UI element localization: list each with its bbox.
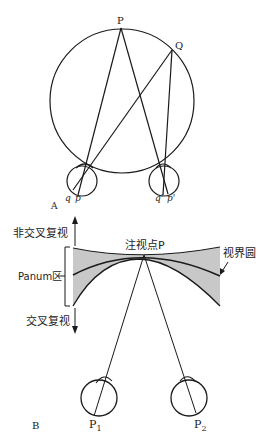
left-cornea-b: [96, 377, 112, 383]
panum-bracket: [65, 247, 70, 306]
retina-p-label: p: [75, 193, 81, 203]
uncrossed-diplopia-label: 非交叉复视: [13, 226, 68, 240]
retina-p1-sub: 1: [96, 424, 101, 433]
fixation-point-label: 注视点P: [125, 238, 165, 252]
down-arrowhead: [72, 326, 78, 334]
retina-p-prime-label: p': [167, 193, 175, 203]
point-Q-label: Q: [175, 40, 183, 51]
retina-q-label: q: [65, 193, 71, 203]
crossed-diplopia-label: 交叉复视: [26, 314, 70, 328]
left-eye-b: [81, 380, 117, 416]
panel-a-label: A: [50, 201, 58, 211]
retina-p2-label: P2: [194, 418, 207, 433]
panel-a-diagram: [50, 28, 194, 196]
panum-area-label: Panum区: [18, 271, 62, 282]
up-arrowhead: [72, 216, 78, 224]
retina-p2-sub: 2: [201, 424, 206, 433]
panel-b-label: B: [32, 420, 39, 431]
right-eye-b: [171, 380, 207, 416]
retina-p1-label: P1: [89, 418, 102, 433]
retina-q-prime-label: q': [155, 193, 163, 203]
ray-q-left: [73, 50, 172, 190]
point-P-label: P: [117, 15, 124, 26]
horopter-label: 视界圆: [223, 246, 256, 260]
ray-left-eye: [94, 255, 144, 416]
horopter-arrowhead: [220, 268, 225, 275]
ray-q-right: [163, 50, 172, 195]
